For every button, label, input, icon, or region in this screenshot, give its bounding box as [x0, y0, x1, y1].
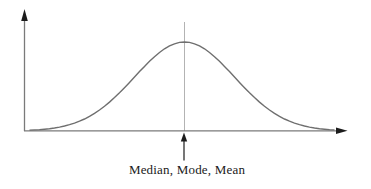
center-label: Median, Mode, Mean — [129, 162, 245, 178]
x-axis-arrow-icon — [336, 128, 348, 134]
bell-curve — [30, 42, 335, 130]
y-axis-arrow-icon — [21, 9, 28, 21]
pointer-arrow-icon — [181, 133, 187, 142]
distribution-diagram: Median, Mode, Mean — [0, 0, 371, 189]
diagram-svg — [0, 0, 371, 189]
